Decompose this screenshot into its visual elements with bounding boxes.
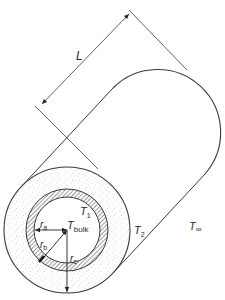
cross-section: ra rb rc Tbulk T1 — [4, 167, 130, 293]
length-label: L — [76, 49, 83, 63]
extension-line-far — [129, 10, 187, 70]
outer-surface-temperature-label: T2 — [134, 224, 145, 238]
pipe-diagram: L ra rb rc Tbulk T1 T2 — [0, 0, 225, 300]
extension-line-near — [35, 106, 98, 169]
cylinder-far-end-arc — [113, 69, 221, 174]
ambient-temperature-label: T∞ — [189, 220, 202, 234]
length-dimension-line — [42, 14, 129, 104]
